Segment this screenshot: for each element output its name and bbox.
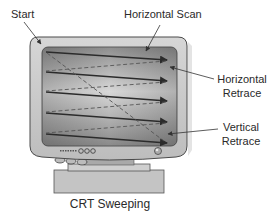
crt-monitor-illustration — [0, 0, 270, 220]
label-vertical-retrace-2: Retrace — [216, 134, 266, 148]
label-start: Start — [11, 7, 34, 21]
label-vertical-retrace-1: Vertical — [216, 120, 266, 134]
label-horizontal-scan: Horizontal Scan — [124, 7, 202, 21]
label-horizontal-retrace-2: Retrace — [214, 86, 270, 100]
diagram-caption: CRT Sweeping — [58, 197, 162, 211]
label-horizontal-retrace-1: Horizontal — [214, 72, 270, 86]
power-button — [155, 148, 162, 155]
